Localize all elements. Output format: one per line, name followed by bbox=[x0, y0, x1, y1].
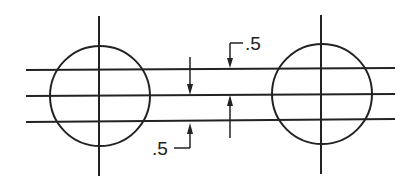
upper-right-dimension-label: .5 bbox=[245, 33, 261, 54]
technical-drawing: .5 .5 bbox=[0, 0, 414, 180]
lower-left-dimension bbox=[174, 57, 190, 148]
arrowhead-up-icon bbox=[187, 123, 193, 134]
lower-left-dimension-label: .5 bbox=[152, 138, 168, 159]
arrowhead-up-icon bbox=[227, 95, 233, 106]
upper-right-dimension bbox=[230, 43, 243, 138]
middle-horizontal-line bbox=[26, 94, 395, 96]
top-horizontal-line bbox=[26, 68, 395, 70]
bottom-horizontal-line bbox=[26, 119, 395, 122]
arrowhead-down-icon bbox=[227, 58, 233, 68]
arrowhead-down-icon bbox=[187, 84, 193, 95]
